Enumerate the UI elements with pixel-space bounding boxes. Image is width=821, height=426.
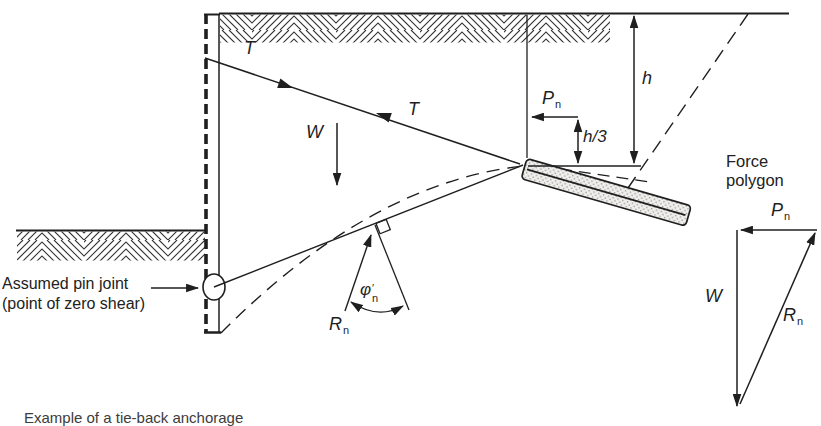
force-polygon-w-label: W [705,286,722,307]
thrust-curve-dashed [221,166,523,333]
slip-plane-line [214,165,523,287]
anchor-block [521,159,691,227]
caption-fragment: Example of a tie-back anchorage [24,409,243,426]
force-polygon-title-line2: polygon [726,171,784,190]
pin-joint-annotation: Assumed pin joint (point of zero shear) [2,274,145,314]
force-polygon-pn-label: Pn [771,200,790,222]
force-polygon-rn-vector [740,233,815,404]
ground-hatch-left [17,232,205,261]
force-polygon-title-line1: Force [726,152,784,171]
rn-label: Rn [329,314,349,336]
tie-label-upper: T [244,38,255,59]
force-polygon [737,230,817,406]
tie-arrowhead-forward [277,78,294,92]
h-label: h [642,68,652,89]
force-polygon-title: Force polygon [726,152,784,190]
tie-label-lower: T [408,99,419,120]
pin-joint-annotation-line1: Assumed pin joint [2,274,145,294]
pin-joint-annotation-line2: (point of zero shear) [2,294,145,314]
ground-hatch-top [220,15,610,43]
force-polygon-rn-label: Rn [783,305,803,327]
h3-label: h/3 [583,127,607,147]
weight-label: W [306,122,323,143]
normal-direction-line [375,225,409,310]
phi-label: φ′n [360,280,378,306]
tie-rod-line [205,58,520,164]
pn-label: Pn [542,88,561,110]
